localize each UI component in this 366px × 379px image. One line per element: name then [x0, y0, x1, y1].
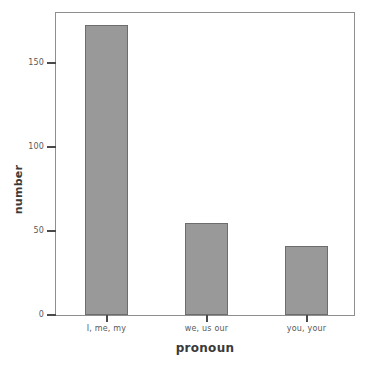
x-axis-tick [206, 315, 208, 322]
y-axis-tick-label: 150 [28, 57, 44, 69]
bar-chart-figure: 0 50 100 150 I, me, my we, us our you, y… [0, 0, 366, 379]
x-axis-category-label: you, your [247, 323, 366, 334]
y-axis-tick: 0 [47, 314, 56, 316]
y-axis-title: number [12, 150, 25, 230]
y-axis-tick: 50 [47, 230, 56, 232]
x-axis-tick [106, 315, 108, 322]
y-axis-tick: 100 [47, 146, 56, 148]
y-axis-tick-label: 0 [39, 309, 44, 321]
x-axis-tick [306, 315, 308, 322]
bar-i-me-my[interactable] [85, 25, 128, 315]
y-axis-tick: 150 [47, 62, 56, 64]
x-axis-title: pronoun [55, 341, 355, 355]
y-axis-tick-label: 50 [33, 225, 44, 237]
figure-caption [0, 366, 366, 379]
bar-we-us-our[interactable] [185, 223, 228, 315]
plot-area: 0 50 100 150 I, me, my we, us our you, y… [55, 12, 355, 316]
y-axis-tick-label: 100 [28, 141, 44, 153]
bar-you-your[interactable] [285, 246, 328, 315]
